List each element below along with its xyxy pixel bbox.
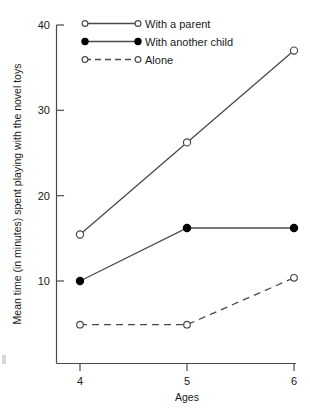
x-axis-title: Ages: [175, 391, 199, 403]
legend-marker-open-right-alone: [135, 57, 141, 63]
series-with-another-child: [76, 224, 297, 284]
line-chart-svg: 40 30 20 10 4 5 6 Ages Mean time (in min…: [0, 0, 310, 411]
series-alone: [77, 275, 298, 329]
x-tick-label-4: 4: [77, 375, 83, 387]
legend-marker-filled-right-child: [135, 38, 141, 44]
series-with-another-child-line: [80, 228, 294, 281]
x-tick-label-5: 5: [184, 375, 190, 387]
legend-marker-open-left-alone: [82, 57, 88, 63]
legend-item-alone: Alone: [82, 54, 173, 66]
y-tick-label-20: 20: [38, 190, 50, 202]
legend-marker-filled-left-child: [82, 38, 88, 44]
legend-label-with-another-child: With another child: [145, 36, 233, 48]
series-with-a-parent-point-age6: [290, 47, 297, 54]
legend-label-with-a-parent: With a parent: [145, 18, 210, 30]
series-with-a-parent: [76, 47, 297, 238]
y-axis-title: Mean time (in minutes) spent playing wit…: [11, 64, 23, 325]
series-alone-line: [80, 278, 294, 325]
series-alone-point-age5: [184, 321, 191, 328]
y-tick-label-30: 30: [38, 104, 50, 116]
series-alone-point-age4: [77, 321, 84, 328]
series-with-a-parent-point-age5: [183, 139, 190, 146]
legend-item-with-another-child: With another child: [82, 36, 233, 48]
series-with-a-parent-point-age4: [76, 231, 83, 238]
y-tick-label-10: 10: [38, 275, 50, 287]
x-tick-label-6: 6: [291, 375, 297, 387]
series-with-another-child-point-age4: [76, 277, 83, 284]
legend-marker-open-left-parent: [82, 21, 88, 27]
series-with-another-child-point-age5: [183, 224, 190, 231]
legend-marker-open-right-parent: [135, 21, 141, 27]
axis-group: 40 30 20 10 4 5 6 Ages Mean time (in min…: [11, 19, 297, 403]
chart-figure: 40 30 20 10 4 5 6 Ages Mean time (in min…: [0, 0, 310, 411]
legend-item-with-a-parent: With a parent: [82, 18, 210, 30]
series-with-another-child-point-age6: [290, 224, 297, 231]
page-edge-artifact: [2, 355, 6, 364]
chart-legend: With a parent With another child Alone: [82, 18, 233, 66]
y-tick-label-40: 40: [38, 19, 50, 31]
series-alone-point-age6: [291, 275, 298, 282]
legend-label-alone: Alone: [145, 54, 173, 66]
